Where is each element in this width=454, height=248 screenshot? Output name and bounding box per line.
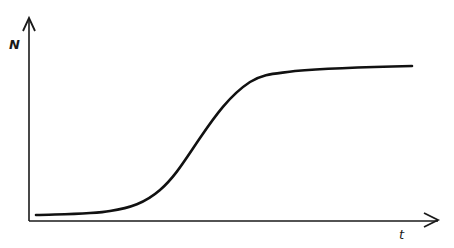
y-axis-label: N <box>9 37 20 52</box>
sigmoid-curve <box>36 66 412 215</box>
x-axis-arrow-icon <box>424 213 438 227</box>
x-axis-label: t <box>399 227 404 242</box>
logistic-growth-chart <box>0 0 454 248</box>
